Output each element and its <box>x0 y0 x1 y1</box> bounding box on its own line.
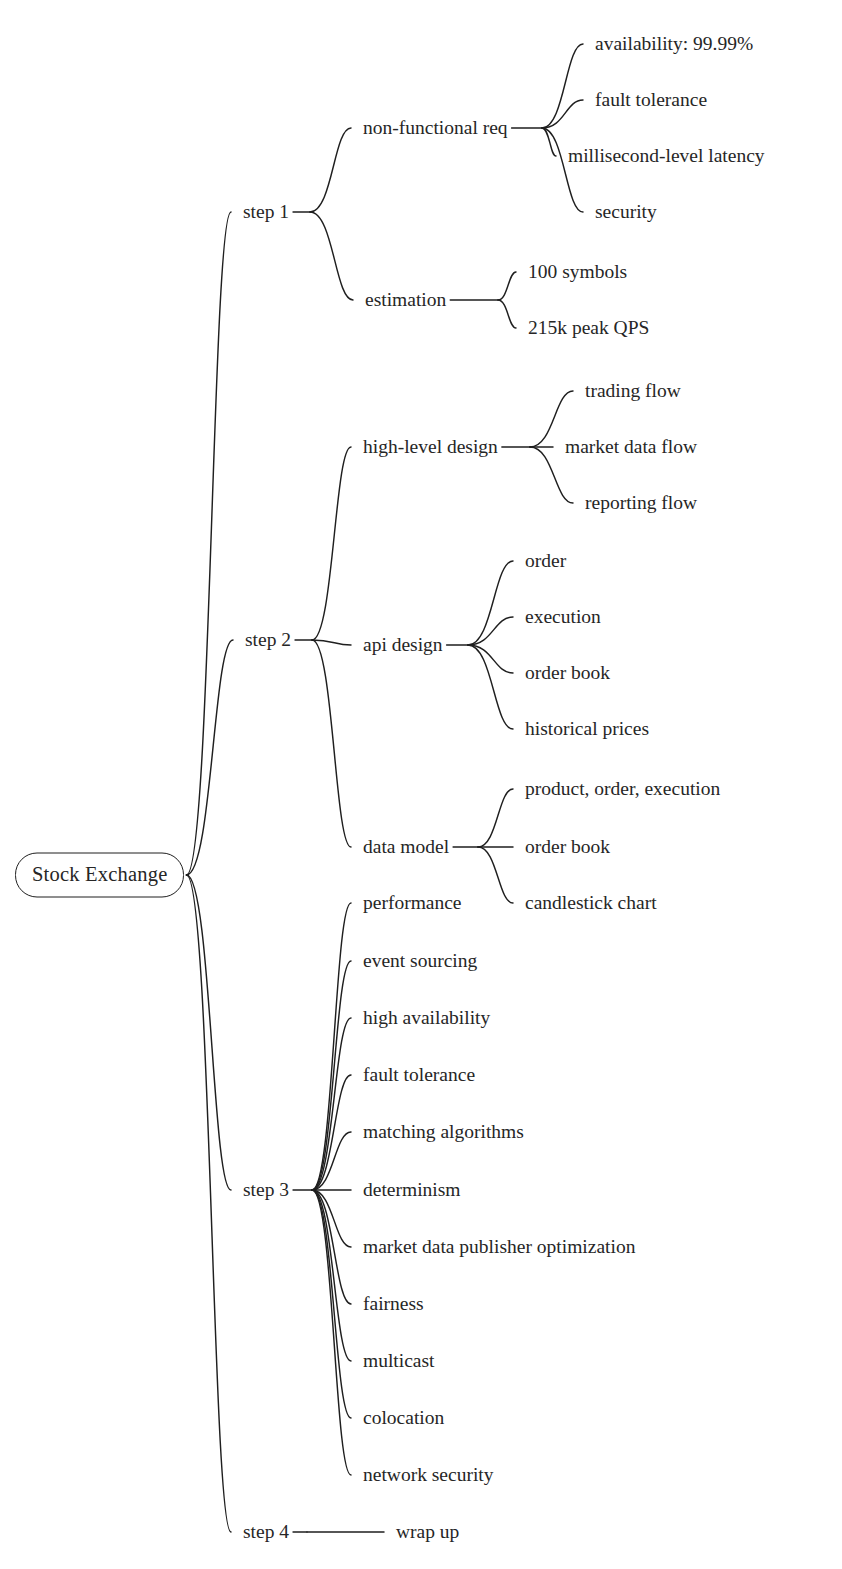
node-label: step 4 <box>243 1522 289 1542</box>
edge-step-3-to-market-data-publisher-optimization <box>312 1190 351 1247</box>
edge-step-3-to-performance <box>312 903 351 1190</box>
node-label: market data flow <box>565 437 697 457</box>
node-label: step 2 <box>245 630 291 650</box>
edge-step-3-to-matching-algorithms <box>312 1132 351 1190</box>
node-event-sourcing[interactable]: event sourcing <box>363 951 477 971</box>
node-label: order <box>525 551 566 571</box>
node-market-data-publisher-optimization[interactable]: market data publisher optimization <box>363 1237 635 1257</box>
edge-non-functional-req-to-fault-tolerance <box>542 100 583 128</box>
node-label: fairness <box>363 1294 424 1314</box>
edge-step-3-to-event-sourcing <box>312 961 351 1190</box>
edge-root-to-step-2 <box>186 640 233 875</box>
branch-node-step-3[interactable]: step 3 <box>243 1180 289 1200</box>
branch-node-step-4[interactable]: step 4 <box>243 1522 289 1542</box>
edge-api-design-to-order <box>468 561 513 645</box>
node-label: performance <box>363 893 462 913</box>
node-candlestick-chart[interactable]: candlestick chart <box>525 893 657 913</box>
edge-step-3-to-multicast <box>312 1190 351 1361</box>
node-performance[interactable]: performance <box>363 893 462 913</box>
node-label: estimation <box>365 290 446 310</box>
node-label: reporting flow <box>585 493 697 513</box>
node-reporting-flow[interactable]: reporting flow <box>585 493 697 513</box>
node-data-model[interactable]: data model <box>363 837 449 857</box>
node-label: step 3 <box>243 1180 289 1200</box>
node-historical-prices[interactable]: historical prices <box>525 719 649 739</box>
edge-step-3-to-fairness <box>312 1190 351 1304</box>
edge-step-2-to-high-level-design <box>312 447 351 640</box>
node-label: product, order, execution <box>525 779 720 799</box>
node-availability-99-99[interactable]: availability: 99.99% <box>595 34 753 54</box>
edge-root-to-step-3 <box>186 875 231 1190</box>
node-label: 100 symbols <box>528 262 627 282</box>
edge-step-2-to-api-design <box>312 640 351 645</box>
edge-data-model-to-product-order-execution <box>478 789 513 847</box>
node-security[interactable]: security <box>595 202 657 222</box>
node-label: availability: 99.99% <box>595 34 753 54</box>
edge-estimation-to-215k-peak-qps <box>498 300 516 328</box>
node-fault-tolerance[interactable]: fault tolerance <box>363 1065 475 1085</box>
edge-estimation-to-100-symbols <box>498 272 516 300</box>
node-label: high availability <box>363 1008 490 1028</box>
edge-non-functional-req-to-availability-99-99 <box>542 44 583 128</box>
edge-step-1-to-estimation <box>310 212 353 300</box>
node-matching-algorithms[interactable]: matching algorithms <box>363 1122 524 1142</box>
node-wrap-up[interactable]: wrap up <box>396 1522 459 1542</box>
node-high-level-design[interactable]: high-level design <box>363 437 498 457</box>
node-label: millisecond-level latency <box>568 146 765 166</box>
edge-api-design-to-execution <box>468 617 513 645</box>
root-node-label: Stock Exchange <box>32 863 167 885</box>
node-label: 215k peak QPS <box>528 318 649 338</box>
edge-step-3-to-network-security <box>312 1190 351 1475</box>
node-order-book[interactable]: order book <box>525 837 610 857</box>
node-label: non-functional req <box>363 118 508 138</box>
node-order[interactable]: order <box>525 551 566 571</box>
node-215k-peak-qps[interactable]: 215k peak QPS <box>528 318 649 338</box>
node-label: step 1 <box>243 202 289 222</box>
edge-step-3-to-fault-tolerance <box>312 1075 351 1190</box>
node-label: wrap up <box>396 1522 459 1542</box>
node-high-availability[interactable]: high availability <box>363 1008 490 1028</box>
node-label: execution <box>525 607 601 627</box>
node-multicast[interactable]: multicast <box>363 1351 435 1371</box>
node-label: security <box>595 202 657 222</box>
node-non-functional-req[interactable]: non-functional req <box>363 118 508 138</box>
node-market-data-flow[interactable]: market data flow <box>565 437 697 457</box>
branch-node-step-2[interactable]: step 2 <box>245 630 291 650</box>
node-determinism[interactable]: determinism <box>363 1180 460 1200</box>
node-label: high-level design <box>363 437 498 457</box>
node-colocation[interactable]: colocation <box>363 1408 444 1428</box>
mind-map-canvas: Stock Exchangestep 1non-functional reqav… <box>0 0 842 1569</box>
edge-root-to-step-4 <box>186 875 231 1532</box>
node-label: fault tolerance <box>363 1065 475 1085</box>
edge-non-functional-req-to-security <box>542 128 583 212</box>
node-estimation[interactable]: estimation <box>365 290 446 310</box>
node-execution[interactable]: execution <box>525 607 601 627</box>
node-network-security[interactable]: network security <box>363 1465 494 1485</box>
node-label: fault tolerance <box>595 90 707 110</box>
node-label: determinism <box>363 1180 460 1200</box>
edge-step-1-to-non-functional-req <box>310 128 351 212</box>
edge-step-3-to-high-availability <box>312 1018 351 1190</box>
node-100-symbols[interactable]: 100 symbols <box>528 262 627 282</box>
node-label: api design <box>363 635 443 655</box>
edge-data-model-to-candlestick-chart <box>478 847 513 903</box>
branch-node-step-1[interactable]: step 1 <box>243 202 289 222</box>
node-api-design[interactable]: api design <box>363 635 443 655</box>
node-label: network security <box>363 1465 494 1485</box>
node-label: multicast <box>363 1351 435 1371</box>
node-fault-tolerance[interactable]: fault tolerance <box>595 90 707 110</box>
node-label: colocation <box>363 1408 444 1428</box>
node-product-order-execution[interactable]: product, order, execution <box>525 779 720 799</box>
node-order-book[interactable]: order book <box>525 663 610 683</box>
node-label: matching algorithms <box>363 1122 524 1142</box>
node-label: trading flow <box>585 381 681 401</box>
node-millisecond-level-latency[interactable]: millisecond-level latency <box>568 146 765 166</box>
node-trading-flow[interactable]: trading flow <box>585 381 681 401</box>
node-label: order book <box>525 837 610 857</box>
node-label: historical prices <box>525 719 649 739</box>
edge-non-functional-req-to-millisecond-level-latency <box>542 128 556 156</box>
node-fairness[interactable]: fairness <box>363 1294 424 1314</box>
edge-step-2-to-data-model <box>312 640 351 847</box>
root-node[interactable]: Stock Exchange <box>15 853 184 898</box>
node-label: order book <box>525 663 610 683</box>
